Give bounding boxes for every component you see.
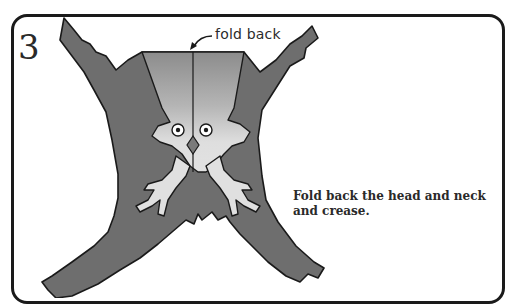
fold-arrow-icon — [194, 36, 212, 46]
left-eye-icon — [172, 124, 184, 136]
instruction-text: Fold back the head and neck and crease. — [293, 189, 493, 219]
right-eye-icon — [200, 124, 212, 136]
step-number: 3 — [18, 30, 40, 64]
fold-back-label: fold back — [215, 26, 281, 42]
